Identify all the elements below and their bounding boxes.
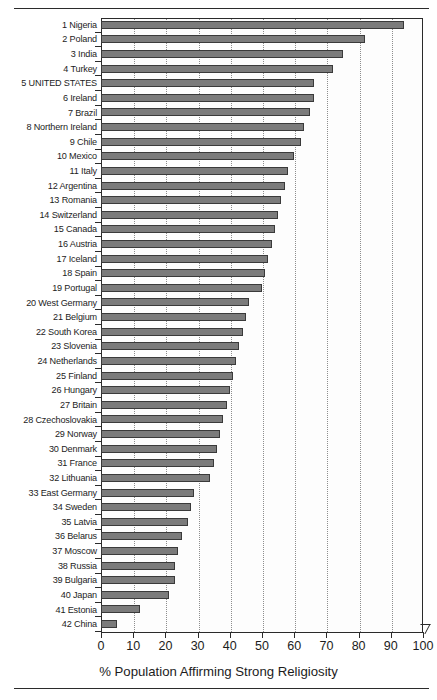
- category-label: 17 Iceland: [0, 254, 97, 264]
- bar: [101, 620, 117, 628]
- category-label: 9 Chile: [0, 137, 97, 147]
- bar-row: 30 Denmark: [0, 442, 437, 457]
- category-label: 13 Romania: [0, 195, 97, 205]
- bar-row: 26 Hungary: [0, 383, 437, 398]
- category-label: 25 Finland: [0, 371, 97, 381]
- bar: [101, 386, 230, 394]
- category-label: 26 Hungary: [0, 385, 97, 395]
- category-label: 29 Norway: [0, 429, 97, 439]
- category-label: 4 Turkey: [0, 64, 97, 74]
- x-tick-100: [423, 632, 424, 638]
- bar-row: 29 Norway: [0, 427, 437, 442]
- bar-row: 6 Ireland: [0, 91, 437, 106]
- category-label: 40 Japan: [0, 590, 97, 600]
- bar-row: 41 Estonia: [0, 603, 437, 618]
- x-tick-label-100: 100: [403, 639, 437, 653]
- category-label: 24 Netherlands: [0, 356, 97, 366]
- category-label: 32 Lithuania: [0, 473, 97, 483]
- bar: [101, 503, 191, 511]
- bar-row: 14 Switzerland: [0, 208, 437, 223]
- bar-row: 33 East Germany: [0, 486, 437, 501]
- bar-row: 34 Sweden: [0, 500, 437, 515]
- bar: [101, 269, 265, 277]
- x-axis-title: % Population Affirming Strong Religiosit…: [0, 664, 437, 680]
- bar: [101, 225, 275, 233]
- category-label: 39 Bulgaria: [0, 575, 97, 585]
- bar: [101, 167, 288, 175]
- bar: [101, 518, 188, 526]
- bar: [101, 35, 365, 43]
- bar: [101, 240, 272, 248]
- category-label: 27 Britain: [0, 400, 97, 410]
- bar: [101, 255, 268, 263]
- bar: [101, 459, 214, 467]
- bar: [101, 21, 404, 29]
- x-tick-70: [326, 632, 327, 638]
- bar: [101, 138, 301, 146]
- bar: [101, 123, 304, 131]
- bar: [101, 372, 233, 380]
- category-label: 3 India: [0, 49, 97, 59]
- bar-row: 36 Belarus: [0, 530, 437, 545]
- bar-row: 37 Moscow: [0, 544, 437, 559]
- bar-row: 27 Britain: [0, 398, 437, 413]
- category-label: 15 Canada: [0, 224, 97, 234]
- bottom-rule: [14, 688, 429, 689]
- bar-row: 19 Portugal: [0, 281, 437, 296]
- bar-row: 3 India: [0, 47, 437, 62]
- bar: [101, 152, 294, 160]
- bar-row: 21 Belgium: [0, 310, 437, 325]
- x-tick-10: [133, 632, 134, 638]
- bar-row: 22 South Korea: [0, 325, 437, 340]
- bar-row: 15 Canada: [0, 223, 437, 238]
- bar: [101, 284, 262, 292]
- bar: [101, 65, 333, 73]
- bar-row: 24 Netherlands: [0, 354, 437, 369]
- bar: [101, 415, 223, 423]
- bar-row: 12 Argentina: [0, 179, 437, 194]
- category-label: 33 East Germany: [0, 488, 97, 498]
- bar: [101, 108, 310, 116]
- category-label: 2 Poland: [0, 34, 97, 44]
- category-label: 18 Spain: [0, 268, 97, 278]
- bar-row: 20 West Germany: [0, 296, 437, 311]
- category-label: 35 Latvia: [0, 517, 97, 527]
- bar-row: 13 Romania: [0, 193, 437, 208]
- category-label: 14 Switzerland: [0, 210, 97, 220]
- category-label: 16 Austria: [0, 239, 97, 249]
- figure-page: 1 Nigeria2 Poland3 India4 Turkey5 UNITED…: [0, 0, 437, 700]
- bar: [101, 328, 243, 336]
- category-label: 12 Argentina: [0, 181, 97, 191]
- bar-row: 10 Mexico: [0, 150, 437, 165]
- category-label: 28 Czechoslovakia: [0, 415, 97, 425]
- bar: [101, 94, 314, 102]
- x-tick-30: [198, 632, 199, 638]
- bar: [101, 313, 246, 321]
- bar-row: 18 Spain: [0, 267, 437, 282]
- bar: [101, 182, 285, 190]
- category-label: 5 UNITED STATES: [0, 78, 97, 88]
- category-label: 30 Denmark: [0, 444, 97, 454]
- bar: [101, 298, 249, 306]
- bar: [101, 605, 140, 613]
- bar: [101, 474, 210, 482]
- bar-rows: 1 Nigeria2 Poland3 India4 Turkey5 UNITED…: [0, 18, 437, 632]
- category-label: 6 Ireland: [0, 93, 97, 103]
- bar-row: 25 Finland: [0, 369, 437, 384]
- bar-row: 35 Latvia: [0, 515, 437, 530]
- bar: [101, 401, 227, 409]
- category-label: 19 Portugal: [0, 283, 97, 293]
- bar-row: 42 China: [0, 617, 437, 632]
- bar: [101, 547, 178, 555]
- bar: [101, 430, 220, 438]
- bar-row: 38 Russia: [0, 559, 437, 574]
- category-label: 42 China: [0, 619, 97, 629]
- bar-row: 9 Chile: [0, 135, 437, 150]
- category-label: 38 Russia: [0, 561, 97, 571]
- bar-row: 4 Turkey: [0, 62, 437, 77]
- category-label: 23 Slovenia: [0, 341, 97, 351]
- category-label: 37 Moscow: [0, 546, 97, 556]
- category-label: 31 France: [0, 458, 97, 468]
- category-label: 8 Northern Ireland: [0, 122, 97, 132]
- bar-row: 5 UNITED STATES: [0, 76, 437, 91]
